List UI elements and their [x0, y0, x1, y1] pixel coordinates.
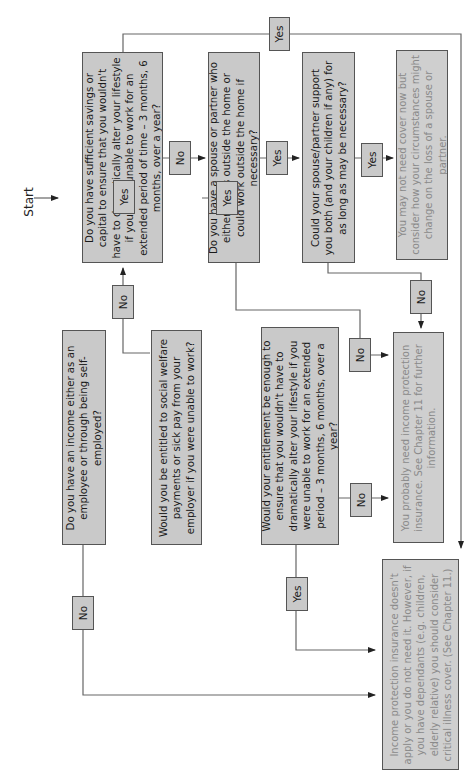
result-probably-need-insurance-text: You probably need income protection insu… — [399, 338, 439, 538]
question-savings: Do you have sufficient savings or capita… — [82, 52, 163, 263]
question-savings-text: Do you have sufficient savings or capita… — [82, 55, 163, 260]
result-probably-need-insurance: You probably need income protection insu… — [393, 332, 444, 543]
edge-label-q1-yes: Yes — [113, 180, 135, 214]
edge-label-q4-no: No — [169, 141, 191, 175]
edge-label-q4-yes: Yes — [269, 17, 290, 51]
edge-label-q6-yes: Yes — [361, 143, 383, 177]
question-spouse-support: Could your spouse/partner support you bo… — [302, 52, 355, 263]
edge-label-q5-no: No — [349, 338, 371, 372]
question-entitled-welfare-text: Would you be entitled to social welfare … — [156, 335, 196, 540]
question-entitled-welfare: Would you be entitled to social welfare … — [151, 330, 202, 545]
question-spouse-works-text: Do you have a spouse or partner who eith… — [208, 58, 260, 258]
question-entitlement-enough: Would your entitlement be enough to ensu… — [261, 327, 339, 545]
result-does-not-apply: Income protection insurance doesn't appl… — [382, 559, 459, 770]
edge-label-q1-no: No — [72, 596, 94, 630]
question-income-text: Do you have an income either as an emplo… — [64, 335, 104, 540]
result-may-not-need-cover: You may not need cover now but consider … — [396, 50, 448, 260]
question-spouse-works: Do you have a spouse or partner who eith… — [208, 52, 260, 263]
start-label: Start — [14, 182, 44, 222]
edge-label-q5-yes: Yes — [266, 141, 288, 175]
edge-label-q2-yes: Yes — [216, 181, 238, 215]
result-does-not-apply-text: Income protection insurance doesn't appl… — [388, 562, 454, 767]
edge-label-q3-yes: Yes — [286, 577, 308, 611]
result-may-not-need-cover-text: You may not need cover now but consider … — [396, 55, 448, 255]
edge-label-q6-no: No — [410, 280, 432, 314]
edge-label-q3-no: No — [350, 483, 372, 517]
question-income: Do you have an income either as an emplo… — [62, 330, 106, 545]
edge-label-q2-no: No — [112, 285, 134, 319]
question-entitlement-enough-text: Would your entitlement be enough to ensu… — [261, 331, 339, 541]
question-spouse-support-text: Could your spouse/partner support you bo… — [308, 58, 348, 258]
